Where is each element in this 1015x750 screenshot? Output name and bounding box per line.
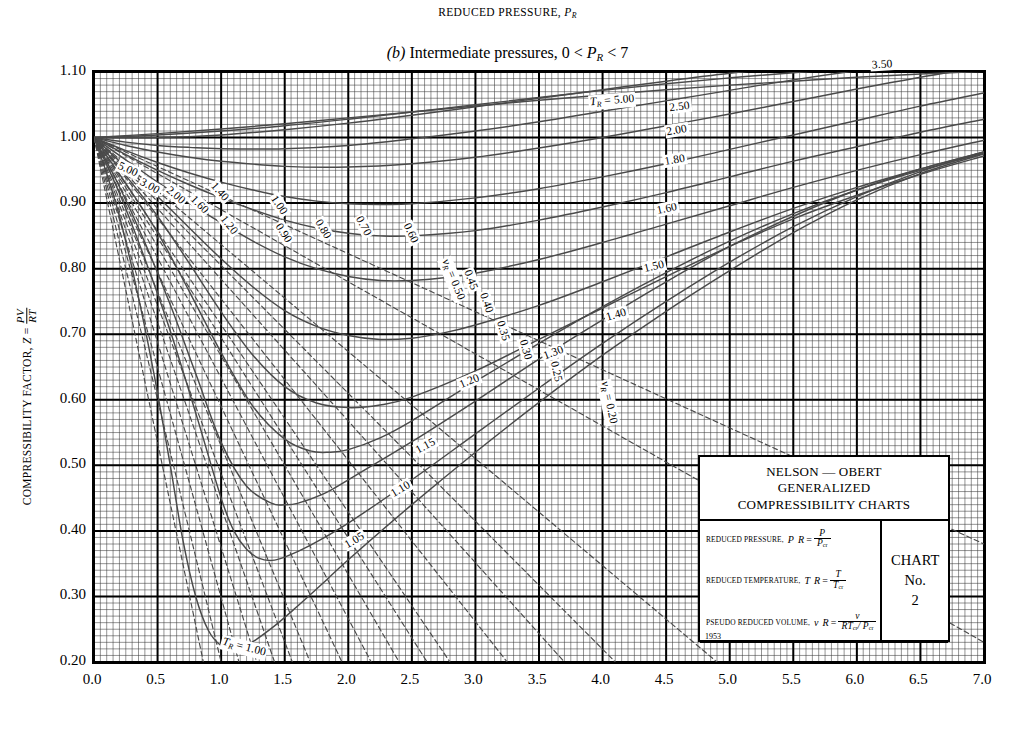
x-tick-1.0: 1.0 bbox=[189, 672, 249, 687]
legend-chart-word: CHART bbox=[891, 551, 939, 571]
x-tick-4.0: 4.0 bbox=[571, 672, 631, 687]
y-axis-title-prefix: COMPRESSIBILITY FACTOR, bbox=[21, 347, 33, 505]
y-tick-0.90: 0.90 bbox=[30, 194, 86, 209]
tr-label-3.50: 3.50 bbox=[870, 57, 894, 71]
definition-reduced-pressure-symbol: P bbox=[788, 534, 794, 545]
x-tick-2.0: 2.0 bbox=[316, 672, 376, 687]
definition-pseudo-reduced-volume-symbol: v bbox=[814, 617, 819, 628]
y-tick-0.30: 0.30 bbox=[30, 587, 86, 602]
definition-reduced-pressure-subscript: R bbox=[798, 534, 804, 545]
legend-title: NELSON — OBERT GENERALIZED COMPRESSIBILI… bbox=[700, 457, 948, 521]
definition-pseudo-reduced-volume-fraction: v RTcr/ Pcr bbox=[838, 612, 876, 633]
x-tick-0.5: 0.5 bbox=[126, 672, 186, 687]
legend-year: 1953 bbox=[705, 632, 721, 641]
y-tick-0.20: 0.20 bbox=[30, 653, 86, 668]
y-tick-1.00: 1.00 bbox=[30, 129, 86, 144]
definition-reduced-temperature-numerator: T bbox=[830, 570, 846, 580]
definition-reduced-pressure: REDUCED PRESSURE, PR = P Pcr bbox=[706, 529, 876, 550]
x-tick-4.5: 4.5 bbox=[634, 672, 694, 687]
y-axis-fraction: PV RT bbox=[15, 308, 38, 324]
x-tick-5.5: 5.5 bbox=[761, 672, 821, 687]
y-axis-title: COMPRESSIBILITY FACTOR, Z = PV RT bbox=[16, 127, 39, 687]
definition-reduced-pressure-numerator: P bbox=[814, 529, 831, 539]
legend-middle: REDUCED PRESSURE, PR = P Pcr REDUCED TEM… bbox=[700, 521, 948, 643]
x-tick-0.0: 0.0 bbox=[62, 672, 122, 687]
definition-reduced-temperature-fraction: T Tcr bbox=[830, 570, 846, 591]
definition-reduced-pressure-label: REDUCED PRESSURE, bbox=[706, 535, 784, 544]
definition-reduced-temperature-symbol: T bbox=[804, 575, 810, 586]
y-tick-0.60: 0.60 bbox=[30, 391, 86, 406]
legend-chart-number: CHART No. 2 bbox=[882, 521, 948, 641]
x-tick-6.0: 6.0 bbox=[825, 672, 885, 687]
x-tick-3.0: 3.0 bbox=[443, 672, 503, 687]
subtitle-symbol: P bbox=[587, 44, 597, 61]
subtitle: (b) Intermediate pressures, 0 < PR < 7 bbox=[0, 44, 1015, 63]
definition-pseudo-reduced-volume: PSEUDO REDUCED VOLUME, vR = v RTcr/ Pcr bbox=[706, 612, 876, 633]
legend-chart-no-word: No. bbox=[905, 571, 926, 591]
definition-reduced-temperature-denominator: Tcr bbox=[830, 580, 846, 591]
legend-chart-value: 2 bbox=[912, 591, 919, 611]
definition-reduced-pressure-denominator: Pcr bbox=[814, 538, 831, 549]
chart-page: REDUCED PRESSURE, PR (b) Intermediate pr… bbox=[0, 0, 1015, 750]
y-axis-numerator: PV bbox=[15, 308, 26, 324]
definition-reduced-temperature: REDUCED TEMPERATURE, TR = T Tcr bbox=[706, 570, 876, 591]
legend-box: NELSON — OBERT GENERALIZED COMPRESSIBILI… bbox=[698, 455, 950, 642]
definition-reduced-temperature-label: REDUCED TEMPERATURE, bbox=[706, 576, 800, 585]
y-tick-0.70: 0.70 bbox=[30, 325, 86, 340]
definition-pseudo-reduced-volume-numerator: v bbox=[838, 612, 876, 622]
subtitle-text: Intermediate pressures, 0 < bbox=[409, 44, 582, 61]
top-axis-title: REDUCED PRESSURE, PR bbox=[0, 6, 1015, 20]
x-tick-6.5: 6.5 bbox=[888, 672, 948, 687]
definition-pseudo-reduced-volume-label: PSEUDO REDUCED VOLUME, bbox=[706, 618, 810, 627]
subtitle-part-label: (b) bbox=[387, 44, 406, 61]
definition-reduced-temperature-subscript: R bbox=[814, 575, 820, 586]
x-tick-1.5: 1.5 bbox=[253, 672, 313, 687]
top-axis-subscript: R bbox=[572, 11, 577, 20]
top-axis-title-text: REDUCED PRESSURE, bbox=[438, 6, 561, 18]
legend-title-line3: COMPRESSIBILITY CHARTS bbox=[704, 497, 944, 513]
y-tick-0.80: 0.80 bbox=[30, 260, 86, 275]
y-tick-0.40: 0.40 bbox=[30, 522, 86, 537]
y-axis-denominator: RT bbox=[27, 308, 39, 324]
legend-title-line2: GENERALIZED bbox=[704, 480, 944, 496]
top-axis-symbol: P bbox=[564, 6, 571, 18]
y-tick-1.10: 1.10 bbox=[30, 63, 86, 78]
subtitle-subscript: R bbox=[597, 51, 604, 63]
subtitle-tail: < 7 bbox=[607, 44, 628, 61]
x-tick-5.0: 5.0 bbox=[698, 672, 758, 687]
x-tick-3.5: 3.5 bbox=[507, 672, 567, 687]
x-tick-7.0: 7.0 bbox=[952, 672, 1012, 687]
y-tick-0.50: 0.50 bbox=[30, 456, 86, 471]
definition-reduced-pressure-fraction: P Pcr bbox=[814, 529, 831, 550]
definition-pseudo-reduced-volume-denominator: RTcr/ Pcr bbox=[838, 621, 876, 632]
definition-pseudo-reduced-volume-subscript: R bbox=[823, 617, 829, 628]
legend-title-line1: NELSON — OBERT bbox=[704, 464, 944, 480]
x-tick-2.5: 2.5 bbox=[380, 672, 440, 687]
legend-definitions: REDUCED PRESSURE, PR = P Pcr REDUCED TEM… bbox=[700, 521, 882, 641]
